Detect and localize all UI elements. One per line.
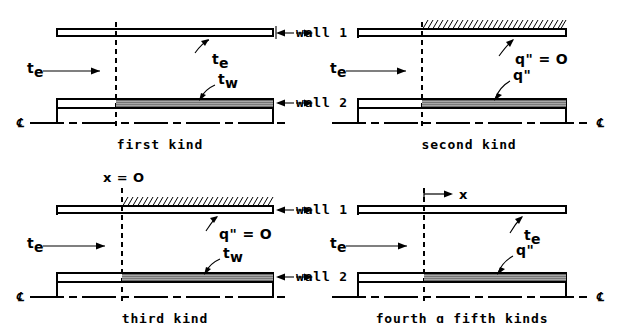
panel-caption-fourth-fifth-kinds: fourth ɑ fifth kinds bbox=[376, 311, 549, 326]
panel-fourth-fifth-kinds: te x te q" ℄ fourth ɑ fifth kinds bbox=[314, 168, 628, 336]
x-axis-label: x bbox=[459, 187, 468, 202]
inlet-flow-arrow bbox=[43, 243, 105, 250]
inlet-temperature-label: te bbox=[330, 60, 347, 80]
wall2-temperature-annotation: tw bbox=[223, 245, 243, 265]
wall2-heated-region bbox=[116, 100, 273, 107]
leader-qflux-zero bbox=[206, 216, 218, 231]
inlet-temperature-label: te bbox=[27, 60, 44, 80]
adiabatic-hatching-wall1 bbox=[122, 197, 273, 206]
panel-caption-third-kind: third kind bbox=[122, 311, 208, 326]
leader-qflux bbox=[494, 81, 510, 101]
leader-te bbox=[510, 216, 523, 233]
inlet-flow-arrow bbox=[346, 243, 407, 250]
panel-third-kind: te x = O q" = O tw wall 1 wall 2 ℄ third… bbox=[0, 168, 314, 336]
panel-caption-second-kind: second kind bbox=[422, 137, 517, 152]
leader-qflux bbox=[497, 256, 513, 275]
panel-second-kind: te q" = O q" ℄ second kind bbox=[314, 0, 628, 168]
centerline-symbol-right: ℄ bbox=[596, 290, 605, 304]
panel-caption-first-kind: first kind bbox=[117, 137, 203, 152]
wall2-heated-region bbox=[422, 100, 566, 107]
inlet-flow-arrow bbox=[346, 68, 406, 75]
wall1-heatflux-annotation: q" = O bbox=[219, 226, 272, 242]
panel-first-kind: te te tw wall 1 wall 2 ℄ first kind bbox=[0, 0, 314, 168]
wall2-heated-region bbox=[122, 274, 273, 281]
x-axis-arrow bbox=[424, 190, 453, 198]
wall1-pointer bbox=[276, 26, 294, 39]
inlet-temperature-label: te bbox=[27, 235, 44, 255]
adiabatic-hatching-wall1 bbox=[422, 20, 566, 29]
wall2-pointer bbox=[276, 100, 294, 107]
origin-label: x = O bbox=[103, 170, 144, 185]
inlet-temperature-label: te bbox=[330, 235, 347, 255]
wall2-heated-region bbox=[424, 274, 566, 281]
wall2-temperature-annotation: tw bbox=[218, 71, 238, 91]
boundary-condition-figure: te te tw wall 1 wall 2 ℄ first kind bbox=[0, 0, 628, 336]
wall1-heatflux-annotation: q" = O bbox=[515, 51, 568, 67]
leader-te-upper bbox=[195, 39, 209, 53]
wall2-pointer bbox=[276, 274, 294, 281]
centerline-symbol-right: ℄ bbox=[596, 116, 605, 130]
wall1-pointer bbox=[276, 207, 294, 214]
inlet-flow-arrow bbox=[43, 68, 100, 75]
centerline-symbol-left: ℄ bbox=[16, 116, 25, 130]
centerline-symbol-left: ℄ bbox=[16, 290, 25, 304]
wall2-heatflux-annotation: q" bbox=[516, 242, 534, 258]
wall1-temperature-annotation: te bbox=[212, 51, 229, 71]
leader-qflux-zero bbox=[499, 39, 514, 56]
wall2-heatflux-annotation: q" bbox=[513, 67, 531, 83]
